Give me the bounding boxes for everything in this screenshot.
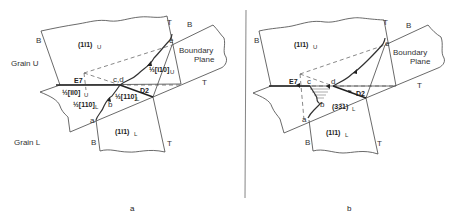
edge-label-T: T <box>202 78 207 87</box>
caption-b: b <box>347 204 352 213</box>
panel-b: B T B T B T (1ī1) U (1ī1) L (33̅1) L Bou… <box>253 18 444 213</box>
boundary-plane-a <box>153 25 227 97</box>
caption-a: a <box>130 204 135 213</box>
panel-divider <box>245 10 246 198</box>
dislocation-label-D2: D2 <box>356 90 365 97</box>
burgers-vector-sub: U <box>170 69 174 75</box>
point-b: b <box>108 100 113 109</box>
edge-label-B: B <box>406 21 411 30</box>
edge-label-B: B <box>36 36 41 45</box>
edge-label-B: B <box>187 20 192 29</box>
edge-label-B: B <box>91 138 96 147</box>
point-d: d <box>331 77 335 86</box>
point-a: a <box>302 115 307 124</box>
dislocation-path-de-b <box>333 38 385 86</box>
dashed-line-b3 <box>300 74 304 120</box>
point-b: b <box>320 100 325 109</box>
panel-a: Grain U Grain L B T B T B T (1ī1) U (1ī1… <box>11 16 227 213</box>
dislocation-label-E7: E7 <box>289 78 298 85</box>
burgers-vector-lower-D2: ½[110] <box>115 93 137 101</box>
plane-label-mid-sub: L <box>352 106 356 112</box>
point-a: a <box>90 116 95 125</box>
plane-label-upper: (1ī1) <box>294 41 308 49</box>
burgers-vector-sub: L <box>95 104 99 110</box>
grain-u-label: Grain U <box>11 59 39 68</box>
dislocation-label-E7: E7 <box>74 77 83 84</box>
grain-l-label: Grain L <box>14 138 41 147</box>
boundary-plane-label: Boundary <box>179 46 213 55</box>
edge-label-T: T <box>377 139 382 148</box>
dashed-line-b <box>300 74 333 86</box>
plane-label-upper-sub: U <box>97 44 101 50</box>
point-e: e <box>385 39 390 48</box>
burgers-vector-sub: U <box>84 92 88 98</box>
edge-label-T: T <box>383 18 388 27</box>
dislocation-label-D2: D2 <box>140 87 149 94</box>
edge-label-T: T <box>167 18 172 27</box>
point-cd: c,d <box>113 75 124 84</box>
plane-label-lower-sub: L <box>134 131 138 137</box>
edge-label-T: T <box>417 81 422 90</box>
plane-label-lower: (1ī1) <box>326 129 340 137</box>
burgers-vector-upper-E7: ½[īī0] <box>62 89 80 97</box>
burgers-vector-lower-ab: ½[110] <box>73 101 95 109</box>
plane-label-upper: (1ī1) <box>78 41 92 49</box>
point-c: c <box>307 77 311 86</box>
dashed-line-a3 <box>84 73 86 90</box>
arrow-icon <box>326 84 330 89</box>
lower-slip-plane-a <box>96 97 165 152</box>
edge-label-T: T <box>167 139 172 148</box>
plane-label-lower-sub: L <box>345 132 349 138</box>
plane-label-mid: (33̅1) <box>332 103 348 111</box>
boundary-plane-label: Plane <box>410 57 431 66</box>
point-e: e <box>169 36 174 45</box>
edge-label-B: B <box>254 36 259 45</box>
boundary-plane-label: Plane <box>194 55 215 64</box>
burgers-vector-upper-e: ½[ī10] <box>149 66 169 74</box>
plane-label-upper-sub: U <box>313 44 317 50</box>
plane-label-lower: (1ī1) <box>115 128 129 136</box>
diagram-canvas: Grain U Grain L B T B T B T (1ī1) U (1ī1… <box>0 0 459 221</box>
boundary-plane-b <box>366 25 444 98</box>
dislocation-path-ce-a <box>120 34 172 85</box>
boundary-plane-label: Boundary <box>393 48 427 57</box>
edge-label-B: B <box>305 138 310 147</box>
burgers-vector-sub: L <box>136 96 140 102</box>
dislocation-path-ab-b <box>308 104 320 118</box>
